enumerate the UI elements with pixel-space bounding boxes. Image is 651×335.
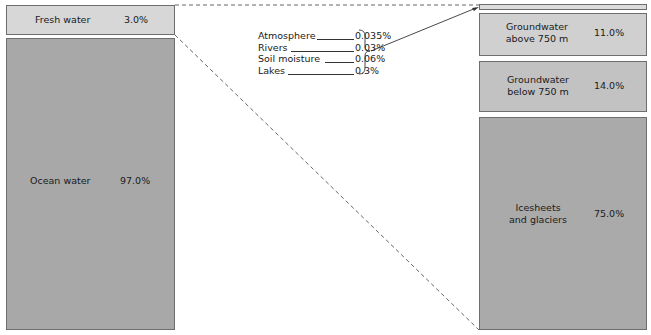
- arrow-head-icon: [472, 7, 479, 11]
- connector-lines: [0, 0, 651, 335]
- pointer-line: [371, 8, 476, 51]
- brace-icon: [359, 30, 370, 74]
- dashed-projection-bottom: [175, 35, 479, 330]
